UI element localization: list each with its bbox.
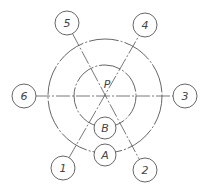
technical-diagram: P 123456BA (0, 0, 210, 189)
balloon-label: 1 (60, 162, 67, 175)
balloon-label: B (101, 122, 109, 135)
balloon-3: 3 (173, 84, 197, 108)
balloon-1: 1 (51, 156, 75, 180)
balloon-5: 5 (55, 11, 79, 35)
balloon-label: 6 (21, 90, 28, 103)
leader-lines (36, 34, 173, 160)
balloon-4: 4 (133, 13, 157, 37)
center-label-p: P (104, 78, 111, 91)
balloon-label: 4 (142, 19, 149, 32)
balloon-label: A (100, 149, 109, 162)
balloon-label: 5 (64, 17, 71, 30)
balloon-label: 2 (142, 164, 149, 177)
balloon-2: 2 (133, 158, 157, 182)
balloon-label: 3 (182, 90, 189, 103)
balloon-6: 6 (12, 84, 36, 108)
balloon-B: B (94, 117, 116, 139)
balloon-A: A (94, 144, 116, 166)
